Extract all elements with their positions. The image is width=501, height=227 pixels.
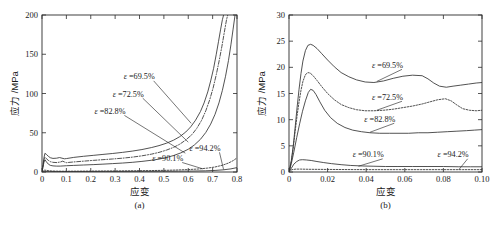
annotation-label: ε =90.1% bbox=[353, 150, 384, 159]
y-tick-label: 5 bbox=[281, 141, 285, 151]
y-tick-label: 20 bbox=[277, 62, 286, 72]
annotation-value: =72.5% bbox=[375, 93, 403, 102]
chart-svg-a: 00.10.20.30.40.50.60.70.8050100150200应变应… bbox=[0, 0, 250, 227]
x-tick-label: 0.10 bbox=[475, 174, 490, 184]
x-tick-label: 0.08 bbox=[436, 174, 451, 184]
y-tick-label: 100 bbox=[25, 89, 38, 99]
annotation-leader bbox=[154, 81, 192, 123]
x-tick-label: 0 bbox=[40, 174, 44, 184]
x-tick-label: 0.04 bbox=[359, 174, 375, 184]
curve-901 bbox=[289, 160, 482, 172]
annotation-leader bbox=[143, 98, 189, 142]
annotation-leader bbox=[459, 159, 468, 170]
x-tick-label: 0.3 bbox=[110, 174, 121, 184]
x-tick-label: 0.1 bbox=[61, 174, 72, 184]
chart-svg-b: 00.020.040.060.080.10051015202530应变应力 /M… bbox=[250, 0, 501, 227]
y-tick-label: 15 bbox=[277, 89, 286, 99]
panel-caption-b: (b) bbox=[380, 200, 391, 210]
y-tick-label: 10 bbox=[277, 115, 286, 125]
y-axis-title-group: 应力 /MPa bbox=[256, 70, 267, 116]
annotation-label: ε =90.1% bbox=[152, 154, 183, 163]
annotation-value: =90.1% bbox=[155, 154, 183, 163]
x-axis-title: 应变 bbox=[376, 186, 396, 197]
x-tick-label: 0.6 bbox=[183, 174, 194, 184]
x-tick-label: 0 bbox=[287, 174, 291, 184]
x-tick-label: 0.2 bbox=[85, 174, 96, 184]
y-tick-label: 25 bbox=[277, 36, 286, 46]
chart-panel-a: 00.10.20.30.40.50.60.70.8050100150200应变应… bbox=[0, 0, 250, 227]
annotation-value: =90.1% bbox=[356, 150, 384, 159]
annotation-value: =72.5% bbox=[116, 90, 144, 99]
annotation-leader bbox=[358, 159, 382, 166]
y-tick-label: 30 bbox=[277, 10, 286, 20]
x-tick-label: 0.5 bbox=[159, 174, 170, 184]
annotation-leader bbox=[124, 115, 185, 153]
x-tick-label: 0.06 bbox=[397, 174, 412, 184]
annotation-label: ε =72.5% bbox=[113, 90, 144, 99]
x-tick-label: 0.7 bbox=[207, 174, 218, 184]
y-axis-title-group: 应力 /MPa bbox=[9, 70, 20, 116]
annotation-label: ε =69.5% bbox=[124, 72, 155, 81]
chart-panel-b: 00.020.040.060.080.10051015202530应变应力 /M… bbox=[250, 0, 501, 227]
annotation-leader bbox=[182, 163, 203, 169]
annotation-value: =94.2% bbox=[441, 150, 469, 159]
annotation-value: =69.5% bbox=[375, 61, 403, 70]
annotation-value: =69.5% bbox=[127, 72, 155, 81]
y-tick-label: 50 bbox=[30, 128, 39, 138]
x-tick-label: 0.4 bbox=[134, 174, 145, 184]
panel-caption-a: (a) bbox=[135, 200, 145, 210]
y-axis-title: 应力 /MPa bbox=[256, 70, 267, 116]
y-axis-title: 应力 /MPa bbox=[9, 70, 20, 116]
y-tick-label: 0 bbox=[34, 167, 38, 177]
annotation-label: ε =94.2% bbox=[189, 144, 220, 153]
annotation-leader bbox=[370, 123, 394, 132]
x-tick-label: 0.02 bbox=[320, 174, 335, 184]
annotation-value: =82.8% bbox=[98, 107, 126, 116]
annotation-label: ε =82.8% bbox=[364, 115, 395, 124]
annotation-label: ε =72.5% bbox=[372, 93, 403, 102]
x-axis-title: 应变 bbox=[130, 186, 150, 197]
annotation-leader bbox=[219, 152, 223, 169]
y-tick-label: 150 bbox=[25, 49, 38, 59]
x-tick-label: 0.8 bbox=[232, 174, 243, 184]
annotation-leader bbox=[377, 101, 402, 110]
annotation-value: =94.2% bbox=[193, 144, 221, 153]
annotation-value: =82.8% bbox=[368, 115, 396, 124]
stress-strain-figure: 00.10.20.30.40.50.60.70.8050100150200应变应… bbox=[0, 0, 501, 227]
annotation-label: ε =82.8% bbox=[94, 107, 125, 116]
y-tick-label: 0 bbox=[281, 167, 285, 177]
annotation-label: ε =94.2% bbox=[438, 150, 469, 159]
y-tick-label: 200 bbox=[25, 10, 38, 20]
annotation-label: ε =69.5% bbox=[372, 61, 403, 70]
